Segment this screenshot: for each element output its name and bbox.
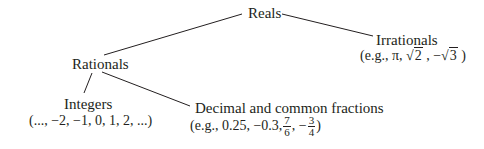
node-reals: Reals: [248, 6, 281, 21]
edge-reals-irrationals: [282, 14, 373, 36]
node-rationals: Rationals: [72, 57, 129, 72]
irrationals-examples: (e.g., π, √2 , −√3 ): [360, 49, 466, 63]
fraction-3-4: 34: [308, 115, 316, 138]
integers-examples: (..., −2, −1, 0, 1, 2, ...): [29, 114, 152, 128]
sqrt-3: √3: [441, 49, 458, 63]
node-integers: Integers: [64, 97, 112, 112]
edge-rationals-fractions: [102, 72, 190, 106]
node-irrationals: Irrationals: [376, 33, 438, 48]
edge-reals-rationals: [104, 14, 242, 55]
sqrt-2: √2: [406, 49, 423, 63]
edge-rationals-integers: [84, 73, 92, 93]
fraction-7-6: 76: [283, 115, 291, 138]
fractions-examples: (e.g., 0.25, −0.3,76, −34): [190, 115, 321, 138]
